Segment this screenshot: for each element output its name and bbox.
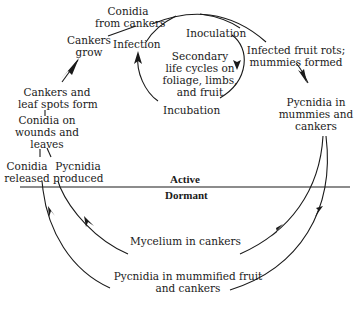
dormant-label: Dormant xyxy=(165,189,208,201)
arc-mycelium-to-pycnidia-produced xyxy=(60,187,128,254)
node-secondary-cycles: Secondary life cycles on foliage, limbs,… xyxy=(160,50,240,98)
node-pycnidia-mummies: Pycnidia in mummies and cankers xyxy=(278,96,354,132)
node-conidia-wounds: Conidia on wounds and leaves xyxy=(14,114,80,150)
arc-mummified-to-conidia-released xyxy=(43,190,110,288)
node-cankers-grow: Cankers grow xyxy=(66,34,112,58)
node-pycnidia-mummified: Pycnidia in mummified fruit and cankers xyxy=(108,270,268,294)
node-infected-fruit: Infected fruit rots; mummies formed xyxy=(244,44,348,68)
arrow-head-icon xyxy=(84,216,94,227)
arc-pycnidia-to-mycelium xyxy=(240,136,323,254)
node-mycelium-cankers: Mycelium in cankers xyxy=(130,235,241,247)
node-infection: Infection xyxy=(113,38,161,50)
node-cankers-leaf-spots: Cankers and leaf spots form xyxy=(18,86,96,110)
arrow-head-icon xyxy=(60,58,79,80)
active-label: Active xyxy=(170,173,200,185)
arrow-head-icon xyxy=(298,69,307,83)
disease-cycle-diagram: Conidia from cankers Cankers grow Infect… xyxy=(0,0,360,311)
node-conidia-from-cankers: Conidia from cankers xyxy=(95,5,161,29)
node-conidia-released: Conidia released xyxy=(3,160,51,184)
node-incubation: Incubation xyxy=(163,104,220,116)
arc-pycnidia-to-mummified xyxy=(230,136,327,290)
node-inoculation: Inoculation xyxy=(186,27,246,39)
node-pycnidia-produced: Pycnidia produced xyxy=(53,160,103,184)
arrow-head-icon xyxy=(48,206,55,217)
